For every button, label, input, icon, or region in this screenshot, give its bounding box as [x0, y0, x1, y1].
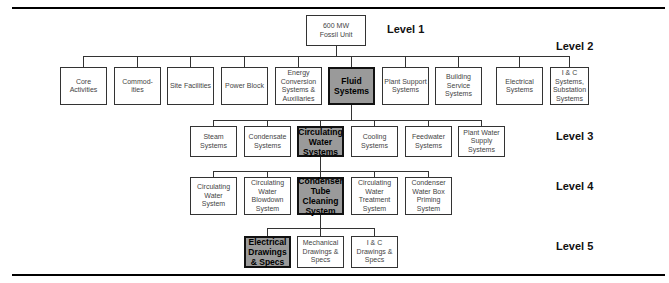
level-2-bus	[83, 56, 569, 57]
node-circulating-water-blowdown[interactable]: Circulating Water Blowdown System	[244, 177, 291, 215]
node-mechanical-drawings-specs[interactable]: Mechanical Drawings & Specs	[297, 236, 344, 268]
node-label: Steam Systems	[192, 133, 235, 150]
connector	[320, 157, 321, 171]
node-label: Circulating Water Treatment System	[353, 179, 396, 213]
connector	[190, 56, 191, 67]
node-circulating-water-treatment[interactable]: Circulating Water Treatment System	[351, 177, 398, 215]
connector	[320, 228, 321, 236]
top-rule	[12, 7, 665, 9]
connector	[374, 228, 375, 236]
node-building-service[interactable]: Building Service Systems	[435, 67, 482, 105]
connector	[320, 215, 321, 228]
node-plant-water-supply[interactable]: Plant Water Supply Systems	[458, 126, 505, 157]
node-commodities[interactable]: Commod-ities	[114, 67, 161, 105]
level-3-label: Level 3	[556, 130, 593, 142]
node-label: Energy Conversion Systems & Auxiliaries	[277, 69, 320, 103]
node-label: Circulating Water System	[192, 183, 235, 209]
node-circulating-water-systems[interactable]: Circulating Water Systems	[297, 126, 344, 157]
node-electrical-systems[interactable]: Electrical Systems	[496, 67, 543, 105]
node-label: Building Service Systems	[437, 73, 480, 99]
node-label: Circulating Water Blowdown System	[246, 179, 289, 213]
node-feedwater-systems[interactable]: Feedwater Systems	[405, 126, 452, 157]
level-5-bus	[267, 228, 375, 229]
connector	[83, 56, 84, 67]
node-plant-support[interactable]: Plant Support Systems	[382, 67, 429, 105]
connector	[519, 56, 520, 67]
connector	[244, 56, 245, 67]
level-2-label: Level 2	[556, 40, 593, 52]
level-4-label: Level 4	[556, 180, 593, 192]
node-electrical-drawings-specs[interactable]: Electrical Drawings & Specs	[244, 236, 291, 268]
connector	[351, 105, 352, 120]
node-steam-systems[interactable]: Steam Systems	[190, 126, 237, 157]
node-site-facilities[interactable]: Site Facilities	[167, 67, 214, 105]
node-fossil-unit[interactable]: 600 MW Fossil Unit	[306, 15, 366, 46]
connector	[351, 56, 352, 67]
connector	[298, 56, 299, 67]
node-energy-conversion[interactable]: Energy Conversion Systems & Auxiliaries	[275, 67, 322, 105]
node-label: Plant Water Supply Systems	[460, 129, 503, 155]
node-label: Commod-ities	[116, 78, 159, 95]
node-cooling-systems[interactable]: Cooling Systems	[351, 126, 398, 157]
connector	[458, 56, 459, 67]
node-label: Power Block	[225, 82, 264, 91]
connector	[336, 46, 337, 56]
connector	[569, 56, 570, 67]
node-core-activities[interactable]: Core Activities	[60, 67, 107, 105]
level-3-bus	[213, 120, 482, 121]
node-label: Site Facilities	[170, 82, 211, 91]
node-label: Feedwater Systems	[407, 133, 450, 150]
node-label: Condensate Systems	[246, 133, 289, 150]
connector	[405, 56, 406, 67]
bottom-rule	[12, 274, 665, 276]
node-label: Electrical Drawings & Specs	[247, 237, 288, 267]
node-fluid-systems[interactable]: Fluid Systems	[328, 67, 375, 105]
level-1-label: Level 1	[387, 23, 424, 35]
node-label: Condenser Tube Cleaning System	[298, 176, 342, 216]
node-label: Circulating Water Systems	[298, 127, 342, 157]
node-label: Core Activities	[62, 78, 105, 95]
node-label: Mechanical Drawings & Specs	[299, 239, 342, 265]
connector	[137, 56, 138, 67]
node-circulating-water-system[interactable]: Circulating Water System	[190, 177, 237, 215]
node-label: I & C Drawings & Specs	[353, 239, 396, 265]
node-condenser-tube-cleaning[interactable]: Condenser Tube Cleaning System	[297, 177, 344, 215]
node-label: Fluid Systems	[331, 76, 372, 96]
node-label: Condenser Water Box Priming System	[407, 179, 450, 213]
level-5-label: Level 5	[556, 240, 593, 252]
node-label: I & C Systems, Substation Systems	[552, 69, 587, 103]
node-power-block[interactable]: Power Block	[221, 67, 268, 105]
node-condensate-systems[interactable]: Condensate Systems	[244, 126, 291, 157]
node-label: Plant Support Systems	[384, 78, 427, 95]
node-ic-drawings-specs[interactable]: I & C Drawings & Specs	[351, 236, 398, 268]
node-condenser-water-box-priming[interactable]: Condenser Water Box Priming System	[405, 177, 452, 215]
node-label: 600 MW Fossil Unit	[320, 22, 353, 39]
node-label: Cooling Systems	[353, 133, 396, 150]
node-ic-systems[interactable]: I & C Systems, Substation Systems	[550, 67, 589, 105]
level-4-bus	[213, 171, 429, 172]
connector	[267, 228, 268, 236]
node-label: Electrical Systems	[498, 78, 541, 95]
